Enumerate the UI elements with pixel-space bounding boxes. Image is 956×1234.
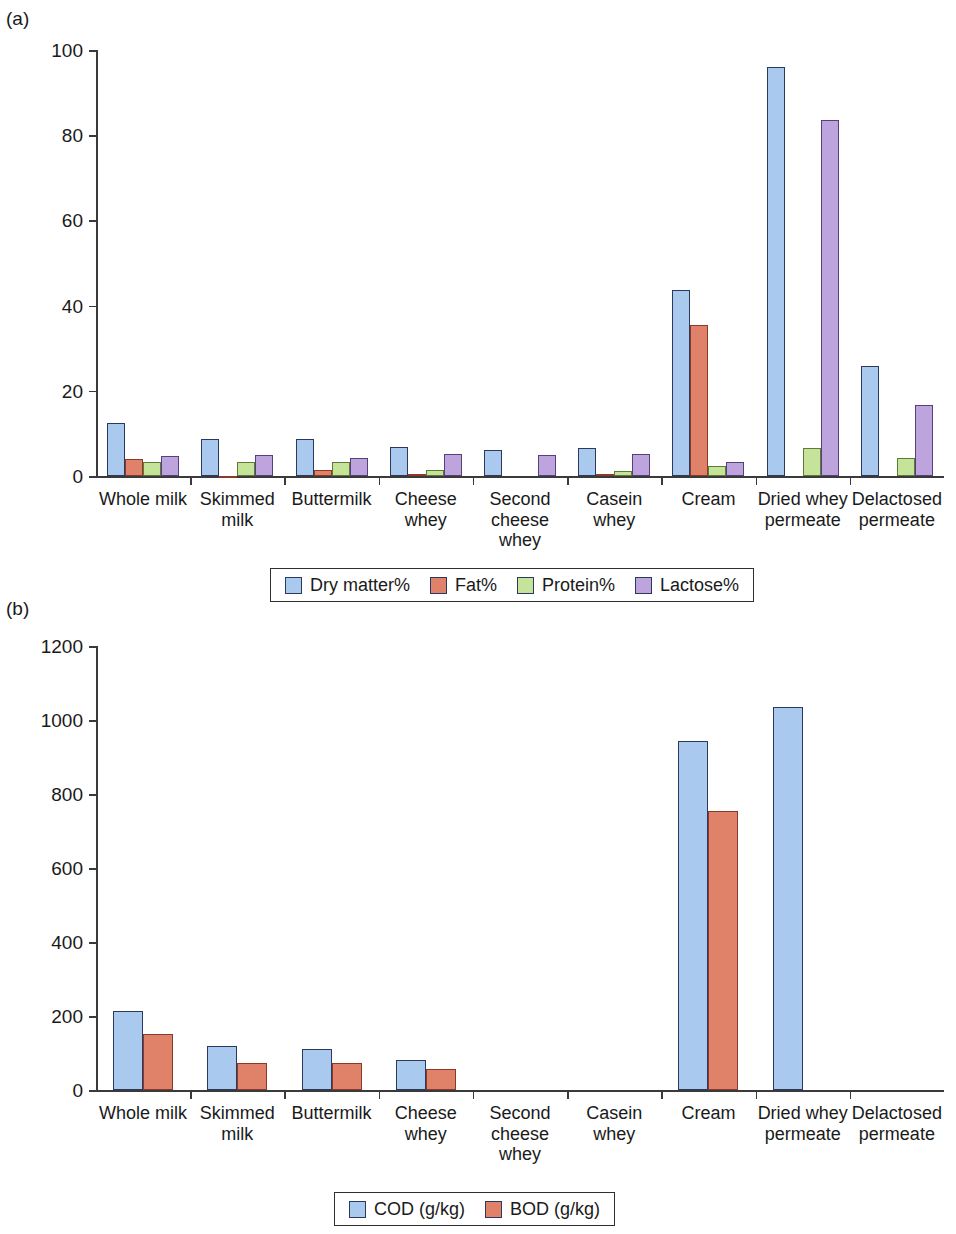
x-axis-category-line: whey (554, 1124, 674, 1145)
x-axis-category-line: milk (177, 1124, 297, 1145)
x-axis-tick (284, 476, 286, 485)
bar (596, 474, 614, 476)
y-axis-tick (89, 942, 96, 944)
x-axis-category-line: Delactosed (837, 1103, 956, 1124)
x-axis-tick (473, 476, 475, 485)
x-axis-category-line: permeate (837, 1124, 956, 1145)
bar (219, 476, 237, 478)
bar (255, 455, 273, 476)
x-axis-tick (379, 1090, 381, 1099)
legend-label: Dry matter% (310, 575, 410, 596)
bar (390, 447, 408, 476)
bar (332, 462, 350, 476)
x-axis-tick (190, 476, 192, 485)
legend-label: Fat% (455, 575, 497, 596)
bar (614, 471, 632, 476)
x-axis-category-line: whey (460, 1144, 580, 1165)
x-axis-tick (473, 1090, 475, 1099)
bar (897, 458, 915, 476)
x-axis-tick (850, 1090, 852, 1099)
legend-swatch-icon (349, 1201, 366, 1218)
bar (726, 462, 744, 476)
x-axis-category-line: Delactosed (837, 489, 956, 510)
bar (444, 454, 462, 476)
bar (302, 1049, 332, 1090)
bar (396, 1060, 426, 1090)
x-axis-category-line: whey (554, 510, 674, 531)
legend-panel-a: Dry matter%Fat%Protein%Lactose% (270, 568, 754, 602)
bar (314, 470, 332, 476)
bar (690, 325, 708, 476)
y-axis-tick-label: 400 (11, 933, 83, 952)
x-axis-tick (661, 476, 663, 485)
bar (632, 454, 650, 476)
legend-label: Lactose% (660, 575, 739, 596)
bar (426, 1069, 456, 1090)
bar (332, 1063, 362, 1090)
bar (915, 405, 933, 476)
bar (767, 67, 785, 476)
bar (207, 1046, 237, 1090)
legend-swatch-icon (517, 577, 534, 594)
y-axis-tick-label: 60 (11, 211, 83, 230)
legend-label: Protein% (542, 575, 615, 596)
legend-item: Fat% (430, 575, 497, 596)
bar (773, 707, 803, 1090)
bar (803, 448, 821, 476)
y-axis-tick (89, 220, 96, 222)
bar (296, 439, 314, 476)
y-axis-tick (89, 868, 96, 870)
y-axis-tick-label: 20 (11, 382, 83, 401)
bar (708, 466, 726, 476)
chart-panel-b: 020040060080010001200Whole milkSkimmedmi… (0, 600, 956, 1180)
y-axis-tick-label: 40 (11, 297, 83, 316)
bar (201, 439, 219, 476)
x-axis-tick (567, 1090, 569, 1099)
legend-swatch-icon (285, 577, 302, 594)
x-axis-tick (850, 476, 852, 485)
x-axis-category-label: Delactosedpermeate (837, 489, 956, 530)
y-axis-tick-label: 80 (11, 126, 83, 145)
x-axis-category-line: milk (177, 510, 297, 531)
y-axis-tick (89, 646, 96, 648)
y-axis-tick-label: 600 (11, 859, 83, 878)
y-axis-line (96, 50, 98, 476)
legend-item: COD (g/kg) (349, 1199, 465, 1220)
x-axis-category-line: permeate (837, 510, 956, 531)
bar (708, 811, 738, 1090)
y-axis-tick (89, 720, 96, 722)
y-axis-tick (89, 306, 96, 308)
bar (426, 470, 444, 476)
x-axis-tick (756, 476, 758, 485)
bar (578, 448, 596, 476)
x-axis-tick (661, 1090, 663, 1099)
y-axis-line (96, 646, 98, 1090)
bar (861, 366, 879, 476)
legend-swatch-icon (485, 1201, 502, 1218)
bar (821, 120, 839, 476)
legend-panel-b: COD (g/kg)BOD (g/kg) (334, 1192, 615, 1226)
bar (107, 423, 125, 476)
bar (350, 458, 368, 476)
x-axis-tick (379, 476, 381, 485)
y-axis-tick-label: 1000 (11, 711, 83, 730)
bar (143, 1034, 173, 1090)
x-axis-tick (567, 476, 569, 485)
y-axis-tick (89, 391, 96, 393)
bar (408, 474, 426, 476)
bar (113, 1011, 143, 1090)
x-axis-category-line: whey (460, 530, 580, 551)
bar (538, 455, 556, 476)
legend-swatch-icon (635, 577, 652, 594)
x-axis-tick (190, 1090, 192, 1099)
y-axis-tick (89, 794, 96, 796)
y-axis-tick (89, 1016, 96, 1018)
y-axis-tick (89, 50, 96, 52)
bar (161, 456, 179, 476)
bar (125, 459, 143, 476)
y-axis-tick (89, 135, 96, 137)
y-axis-tick-label: 100 (11, 41, 83, 60)
y-axis-tick (89, 1090, 96, 1092)
y-axis-tick-label: 0 (11, 467, 83, 486)
bar (237, 462, 255, 476)
